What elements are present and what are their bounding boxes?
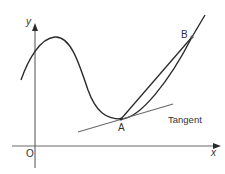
tangent-line	[78, 104, 173, 132]
tangent-label: Tangent	[168, 114, 202, 125]
curve	[21, 15, 205, 119]
y-axis-arrow-icon	[32, 23, 38, 31]
origin-label: O	[26, 148, 34, 159]
point-b-label: B	[181, 29, 188, 40]
tangent-diagram: y O x A B Tangent	[0, 0, 225, 174]
y-axis-label: y	[25, 16, 32, 27]
chord-ab	[121, 37, 192, 119]
axes	[12, 23, 221, 168]
point-b	[190, 35, 193, 38]
point-a	[119, 117, 122, 120]
x-axis-label: x	[210, 147, 217, 158]
point-a-label: A	[118, 122, 125, 133]
